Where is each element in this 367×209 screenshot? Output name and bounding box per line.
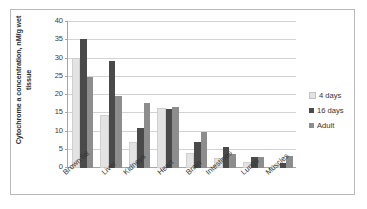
x-axis-tick-cell: Muscles	[267, 170, 296, 209]
bar-group	[125, 22, 154, 168]
plot-inner: 0510152025303540	[67, 21, 295, 168]
legend-swatch-icon	[309, 92, 316, 99]
bar	[115, 96, 122, 168]
bar	[72, 58, 81, 168]
y-axis-tick-label: 15	[55, 108, 63, 116]
y-axis-tick-label: 5	[59, 145, 63, 153]
legend-label: 4 days	[319, 91, 341, 100]
x-axis-tick-cell: Intestines	[210, 170, 239, 209]
bar	[157, 108, 166, 168]
legend-item: Adult	[309, 118, 365, 133]
bar-group	[97, 22, 126, 168]
x-axis-tick-cell: Lungs	[238, 170, 267, 209]
legend-item: 4 days	[309, 88, 365, 103]
y-axis-tick-label: 35	[55, 35, 63, 43]
x-axis-tick-cell: Brown fat	[67, 170, 96, 209]
x-axis-tick-cell: Kidneys	[124, 170, 153, 209]
y-axis-tick-label: 30	[55, 54, 63, 62]
bar-group	[268, 22, 297, 168]
bar-group	[154, 22, 183, 168]
y-axis-title: Cytochrome a concentration, nM/g wet tis…	[14, 15, 50, 145]
plot-area: 0510152025303540	[67, 21, 295, 168]
bar	[100, 115, 109, 168]
y-axis-title-line-2: tissue	[24, 15, 34, 145]
bar-group	[68, 22, 97, 168]
legend-swatch-icon	[309, 108, 314, 113]
legend-label: Adult	[317, 121, 334, 130]
bar-group	[182, 22, 211, 168]
y-axis-title-line-1: Cytochrome a concentration, nM/g wet	[14, 15, 24, 145]
bar-group	[239, 22, 268, 168]
bar-groups	[68, 22, 296, 168]
x-axis-tick-labels: Brown fatLiverKidneysHeartBrainIntestine…	[67, 170, 295, 209]
y-axis-tick-label: 25	[55, 72, 63, 80]
legend-item: 16 days	[309, 103, 365, 118]
bar	[172, 107, 179, 168]
chart-legend: 4 days16 daysAdult	[309, 88, 365, 133]
x-axis-tick-cell: Brain	[181, 170, 210, 209]
legend-swatch-icon	[309, 123, 314, 128]
y-axis-tick-label: 40	[55, 17, 63, 25]
bar-group	[211, 22, 240, 168]
chart-frame: Cytochrome a concentration, nM/g wet tis…	[10, 9, 355, 195]
y-axis-tick-label: 20	[55, 90, 63, 98]
legend-label: 16 days	[317, 106, 344, 115]
x-axis-tick-cell: Liver	[96, 170, 125, 209]
x-axis-tick-cell: Heart	[153, 170, 182, 209]
y-axis-tick-label: 10	[55, 127, 63, 135]
